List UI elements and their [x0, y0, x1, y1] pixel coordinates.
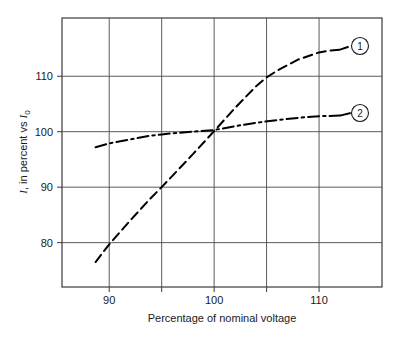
- series-badge-connector-2: [340, 113, 351, 116]
- x-axis-ticks: [109, 287, 319, 292]
- series-badges: 12: [340, 38, 368, 122]
- plot-frame: [62, 18, 382, 287]
- series-badge-label-1: 1: [357, 41, 363, 52]
- series-badge-label-2: 2: [357, 108, 363, 119]
- y-tick-label-80: 80: [41, 237, 53, 249]
- y-axis-title: I, in percent vs I0: [17, 110, 32, 195]
- x-tick-label-100: 100: [205, 294, 223, 306]
- vertical-gridlines: [109, 18, 319, 287]
- svg-text:I, in percent vs I0: I, in percent vs I0: [17, 110, 32, 195]
- x-tick-label-90: 90: [103, 294, 115, 306]
- series-line-1: [96, 50, 340, 262]
- y-axis-tick-labels: 8090100110: [35, 70, 53, 248]
- series-badge-connector-1: [340, 46, 351, 50]
- x-axis-title: Percentage of nominal voltage: [148, 312, 297, 324]
- y-tick-label-100: 100: [35, 126, 53, 138]
- y-axis-title-middle: , in percent vs: [17, 118, 29, 190]
- x-tick-label-110: 110: [310, 294, 328, 306]
- y-tick-label-90: 90: [41, 181, 53, 193]
- y-tick-label-110: 110: [35, 70, 53, 82]
- y-axis-title-ref-subscript: 0: [23, 110, 32, 115]
- data-series-layer: [96, 50, 340, 262]
- y-axis-ticks: [57, 76, 62, 242]
- chart-screenshot: 90100110 8090100110 12 Percentage of nom…: [0, 0, 401, 342]
- x-axis-tick-labels: 90100110: [103, 294, 328, 306]
- line-chart: 90100110 8090100110 12 Percentage of nom…: [0, 0, 401, 342]
- horizontal-gridlines: [62, 76, 382, 242]
